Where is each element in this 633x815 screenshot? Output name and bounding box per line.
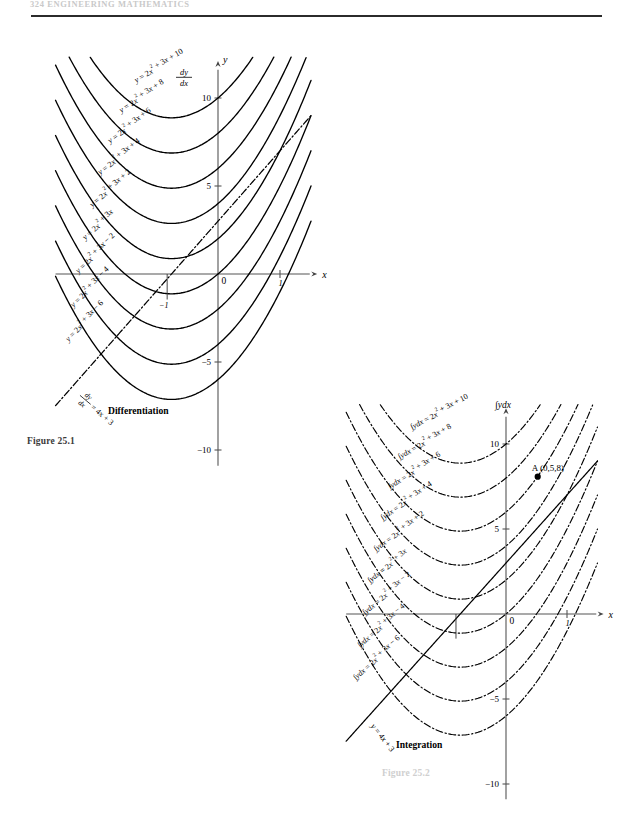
svg-text:−5: −5 [489,694,499,704]
svg-text:0: 0 [510,616,515,626]
svg-text:y = 2x2 + 3x − 2: y = 2x2 + 3x − 2 [71,230,118,275]
svg-text:A (0,5,8): A (0,5,8) [532,463,564,473]
svg-text:∫ydx = 2x2 + 3x + 8: ∫ydx = 2x2 + 3x + 8 [394,421,454,462]
figure-25-1-caption: Figure 25.1 [27,436,75,446]
svg-text:∫ydx = 2x2 + 3x + 2: ∫ydx = 2x2 + 3x + 2 [369,508,427,554]
svg-text:Differentiation: Differentiation [108,405,169,416]
figure-25-2-caption: Figure 25.2 [382,768,430,778]
header-rule [31,15,602,17]
svg-text:y = 2x2 + 3x + 6: y = 2x2 + 3x + 6 [103,105,154,146]
svg-text:dx: dx [180,79,188,88]
svg-text:10: 10 [202,93,212,103]
svg-text:−1: −1 [159,301,168,310]
textbook-page: 324 ENGINEERING MATHEMATICS 105−5−1001xy… [0,0,633,815]
svg-text:−10: −10 [485,779,500,789]
figure-25-1-plot: 105−5−1001xydydx−1y = 2x2 + 3x + 10y = 2… [22,22,362,442]
svg-text:y: y [222,54,228,65]
svg-text:−5: −5 [201,357,211,367]
svg-text:Integration: Integration [396,739,443,750]
svg-text:5: 5 [495,524,500,534]
svg-text:∫ydx = 2x2 + 3x − 6: ∫ydx = 2x2 + 3x − 6 [348,633,403,683]
svg-text:y = 4x + 3: y = 4x + 3 [368,721,396,753]
figure-25-1: 105−5−1001xydydx−1y = 2x2 + 3x + 10y = 2… [22,22,362,442]
running-head: 324 ENGINEERING MATHEMATICS [30,0,189,9]
figure-25-2: 105−5−1001x∫ydx∫ydx = 2x2 + 3x + 10∫ydx … [292,382,633,782]
svg-text:∫ydx = 2x2 + 3x + 10: ∫ydx = 2x2 + 3x + 10 [406,391,470,432]
svg-text:∫ydx = 2x2 + 3x + 4: ∫ydx = 2x2 + 3x + 4 [376,478,434,522]
svg-text:−10: −10 [197,445,212,455]
svg-text:1: 1 [566,618,570,628]
figure-25-2-plot: 105−5−1001x∫ydx∫ydx = 2x2 + 3x + 10∫ydx … [292,382,633,782]
svg-text:5: 5 [207,181,212,191]
svg-text:0: 0 [222,276,227,286]
svg-text:10: 10 [490,439,500,449]
svg-text:∫ydx: ∫ydx [494,400,512,411]
svg-text:y = 2x2 + 3x + 2: y = 2x2 + 3x + 2 [85,166,134,209]
svg-text:y = 2x2 + 3x − 6: y = 2x2 + 3x − 6 [60,298,106,344]
svg-text:x: x [608,609,614,620]
svg-text:x: x [321,269,327,280]
svg-text:dy: dy [180,68,188,77]
